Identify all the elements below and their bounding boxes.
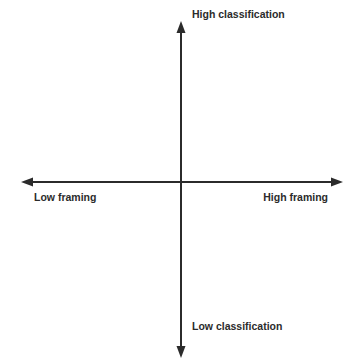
high-framing-label: High framing [263, 192, 328, 203]
arrow-left-icon [21, 178, 33, 187]
axes-diagram [0, 0, 354, 362]
vertical-axis [177, 21, 186, 358]
arrow-right-icon [331, 178, 343, 187]
arrow-down-icon [177, 346, 186, 358]
arrow-up-icon [177, 21, 186, 33]
low-framing-label: Low framing [34, 192, 96, 203]
low-classification-label: Low classification [192, 321, 282, 332]
high-classification-label: High classification [192, 9, 285, 20]
